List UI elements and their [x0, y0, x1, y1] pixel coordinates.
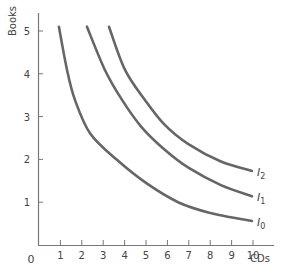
- curve-labels: I0I1I2: [257, 166, 265, 231]
- x-tick-label: 5: [143, 250, 149, 261]
- x-ticks: 12345678910: [57, 240, 259, 261]
- y-tick-label: 3: [24, 112, 30, 123]
- x-tick-label: 9: [228, 250, 234, 261]
- x-tick-label: 1: [57, 250, 63, 261]
- y-tick-label: 2: [24, 154, 30, 165]
- x-axis-label: CDs: [250, 253, 270, 264]
- y-tick-label: 5: [24, 26, 30, 37]
- curve-i0: [59, 27, 252, 221]
- curve-label-i1: I1: [257, 191, 265, 206]
- x-tick-label: 7: [186, 250, 192, 261]
- x-tick-label: 6: [164, 250, 170, 261]
- curve-i1: [87, 27, 252, 196]
- curve-label-i2: I2: [257, 166, 265, 181]
- y-axis-label: Books: [7, 6, 18, 36]
- x-tick-label: 8: [207, 250, 213, 261]
- y-tick-label: 1: [24, 197, 30, 208]
- origin-label: 0: [28, 253, 35, 266]
- axes: [38, 13, 274, 246]
- x-tick-label: 4: [121, 250, 127, 261]
- indifference-curve-chart: 12345678910 12345 0 CDs Books I0I1I2: [0, 0, 285, 279]
- curves: [59, 27, 252, 221]
- x-tick-label: 3: [100, 250, 106, 261]
- y-ticks: 12345: [24, 26, 43, 208]
- curve-label-i0: I0: [257, 216, 265, 231]
- chart-canvas: 12345678910 12345 0 CDs Books I0I1I2: [0, 0, 285, 279]
- x-tick-label: 2: [79, 250, 85, 261]
- y-tick-label: 4: [24, 69, 30, 80]
- curve-i2: [109, 27, 252, 171]
